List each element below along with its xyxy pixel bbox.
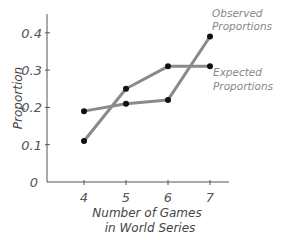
x-tick-label: 4: [80, 190, 88, 205]
x-tick-label: 6: [164, 190, 172, 205]
x-tick-label: 7: [206, 190, 215, 205]
y-axis-title: Proportion: [11, 67, 25, 129]
data-point: [165, 63, 171, 69]
x-axis-title: Number of Games: [92, 206, 201, 220]
series-line-expected: [84, 66, 210, 141]
data-point: [165, 97, 171, 103]
data-point: [123, 101, 129, 107]
x-axis-title: in World Series: [105, 221, 196, 235]
data-point: [123, 86, 129, 92]
x-tick-label: 5: [122, 190, 130, 205]
data-point: [207, 34, 213, 40]
legend-expected: Proportions: [213, 80, 274, 92]
data-point: [81, 138, 87, 144]
data-point: [81, 108, 87, 114]
series-lines: [81, 34, 213, 144]
y-tick-label: 0: [30, 175, 38, 190]
series-line-observed: [84, 37, 210, 112]
y-tick-label: 0.4: [21, 26, 42, 41]
axes: 00.10.20.30.44567: [21, 14, 229, 205]
legend-observed: Proportions: [212, 20, 273, 32]
legend-expected: Expected: [213, 66, 262, 78]
legend-observed: Observed: [212, 7, 263, 19]
y-tick-label: 0.1: [21, 138, 42, 153]
labels: Number of Gamesin World SeriesProportion…: [11, 7, 274, 235]
line-chart: 00.10.20.30.44567 Number of Gamesin Worl…: [0, 0, 281, 240]
